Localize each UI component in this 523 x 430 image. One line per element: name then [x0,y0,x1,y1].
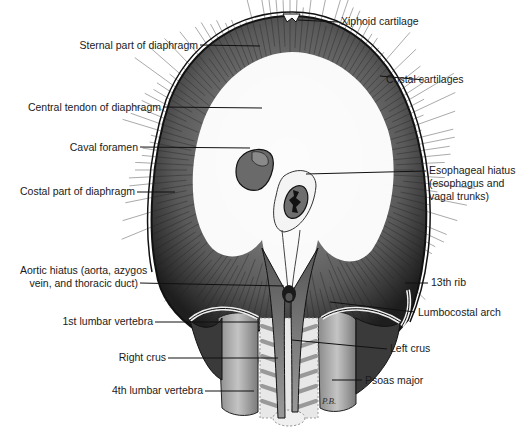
label-esophageal-hiatus: Esophageal hiatus (esophagus and vagal t… [429,164,515,203]
label-13th-rib: 13th rib [431,276,466,289]
label-esophageal-line3: vagal trunks) [429,190,515,203]
label-costal-cartilages: Costal cartilages [386,73,464,86]
label-sternal-part: Sternal part of diaphragm [60,39,198,52]
label-4th-lumbar-vertebra: 4th lumbar vertebra [90,384,203,397]
label-aortic-line1: Aortic hiatus (aorta, azygos [20,264,138,277]
label-caval-foramen: Caval foramen [40,141,138,154]
label-xiphoid-cartilage: Xiphoid cartilage [341,15,419,28]
label-1st-lumbar-vertebra: 1st lumbar vertebra [40,315,153,328]
psoas-major-right [218,313,258,416]
label-esophageal-line2: (esophagus and [429,177,515,190]
artist-initials: P.B. [321,396,336,406]
label-aortic-line2: vein, and thoracic duct) [20,277,138,290]
label-psoas-major: Psoas major [365,374,423,387]
label-central-tendon: Central tendon of diaphragm [10,101,161,114]
label-lumbocostal-arch: Lumbocostal arch [418,306,501,319]
label-costal-part: Costal part of diaphragm [4,185,135,198]
label-aortic-hiatus: Aortic hiatus (aorta, azygos vein, and t… [20,264,138,290]
diaphragm-illustration: P.B. [0,0,523,430]
aortic-hiatus [282,285,296,303]
vertebral-column [260,318,318,426]
label-left-crus: Left crus [390,342,430,355]
label-esophageal-line1: Esophageal hiatus [429,164,515,177]
label-right-crus: Right crus [90,351,166,364]
